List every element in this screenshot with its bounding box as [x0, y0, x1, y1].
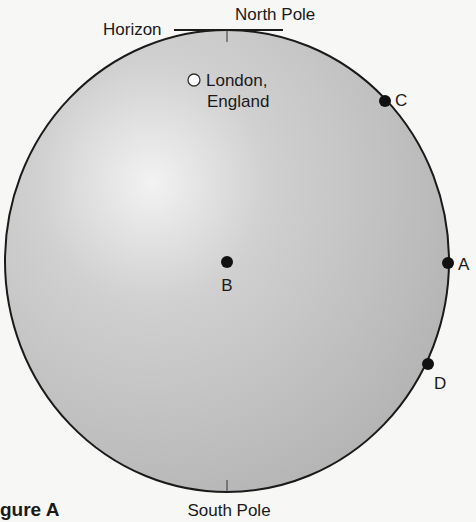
- south-pole-label: South Pole: [187, 501, 270, 520]
- point-a-label: A: [458, 255, 470, 274]
- point-d-marker: [422, 358, 434, 370]
- north-pole-label: North Pole: [235, 5, 315, 24]
- earth-diagram: Horizon North Pole London, England C B A…: [0, 0, 476, 522]
- point-b-marker: [221, 256, 233, 268]
- england-label: England: [207, 92, 269, 111]
- point-d-label: D: [434, 374, 446, 393]
- london-label: London,: [206, 71, 267, 90]
- point-c-label: C: [395, 91, 407, 110]
- point-b-label: B: [221, 276, 232, 295]
- point-c-marker: [379, 95, 391, 107]
- point-a-marker: [442, 257, 454, 269]
- london-marker-icon: [188, 74, 200, 86]
- figure-caption: gure A: [0, 499, 60, 520]
- horizon-label: Horizon: [103, 20, 162, 39]
